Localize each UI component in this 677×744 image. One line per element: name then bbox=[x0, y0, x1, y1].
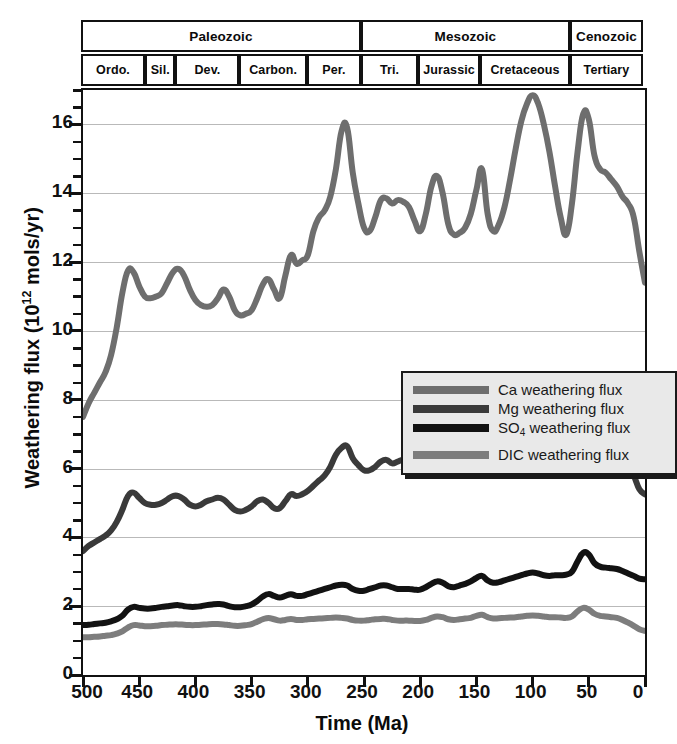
legend-item-label: Ca weathering flux bbox=[498, 381, 622, 398]
y-axis-tick-minor bbox=[73, 175, 83, 178]
legend-swatch-icon bbox=[413, 424, 489, 432]
timescale-cell-label: Dev. bbox=[194, 63, 220, 77]
series-line-so4 bbox=[83, 552, 645, 625]
y-axis-tick-minor bbox=[73, 89, 83, 92]
y-tick-label: 10 bbox=[52, 318, 73, 340]
y-axis-tick-minor bbox=[73, 640, 83, 643]
timescale-cell-label: Tri. bbox=[380, 63, 399, 77]
legend-item-dic-series: DIC weathering flux bbox=[413, 445, 667, 464]
chart-legend: Ca weathering fluxMg weathering fluxSO4 … bbox=[401, 371, 677, 475]
plot-area: Ca weathering fluxMg weathering fluxSO4 … bbox=[81, 88, 647, 677]
timescale-cell-label: Sil. bbox=[151, 63, 170, 77]
y-axis-tick-minor bbox=[73, 588, 83, 591]
y-tick-label: 2 bbox=[62, 593, 73, 615]
y-axis-tick-minor bbox=[73, 382, 83, 385]
y-axis-tick-minor bbox=[73, 450, 83, 453]
legend-item-so4-series: SO4 weathering flux bbox=[413, 418, 667, 437]
series-line-dic bbox=[83, 608, 645, 637]
x-tick-label: 200 bbox=[402, 681, 434, 703]
timescale-cell-label: Jurassic bbox=[423, 63, 475, 77]
x-tick-label: 50 bbox=[576, 681, 597, 703]
y-tick-label: 16 bbox=[52, 111, 73, 133]
timescale-cell-sil: Sil. bbox=[145, 54, 175, 86]
timescale-cell-cretaceous: Cretaceous bbox=[480, 54, 570, 86]
x-axis-tick-major bbox=[644, 675, 647, 687]
legend-swatch-icon bbox=[413, 386, 489, 394]
y-tick-label: 14 bbox=[52, 180, 73, 202]
x-tick-label: 150 bbox=[459, 681, 491, 703]
timescale-cell-paleozoic: Paleozoic bbox=[81, 20, 361, 52]
timescale-cell-tri: Tri. bbox=[361, 54, 418, 86]
x-tick-label: 400 bbox=[178, 681, 210, 703]
y-axis-tick-minor bbox=[73, 313, 83, 316]
geologic-timescale: PaleozoicMesozoicCenozoic Ordo.Sil.Dev.C… bbox=[81, 20, 643, 86]
y-axis-tick-minor bbox=[73, 502, 83, 505]
y-axis-tick-minor bbox=[73, 141, 83, 144]
timescale-period-row: Ordo.Sil.Dev.Carbon.Per.Tri.JurassicCret… bbox=[81, 54, 643, 86]
timescale-cell-label: Cretaceous bbox=[490, 63, 559, 77]
y-axis-tick-minor bbox=[73, 106, 83, 109]
timescale-era-row: PaleozoicMesozoicCenozoic bbox=[81, 20, 643, 52]
timescale-cell-mesozoic: Mesozoic bbox=[361, 20, 570, 52]
timescale-cell-ordo: Ordo. bbox=[81, 54, 145, 86]
legend-swatch-icon bbox=[413, 405, 489, 413]
x-tick-label: 300 bbox=[290, 681, 322, 703]
series-line-ca bbox=[83, 95, 645, 417]
legend-item-label: Mg weathering flux bbox=[498, 400, 624, 417]
x-tick-label: 450 bbox=[121, 681, 153, 703]
y-axis-tick-minor bbox=[73, 347, 83, 350]
y-axis-tick-minor bbox=[73, 571, 83, 574]
timescale-cell-label: Cenozoic bbox=[576, 29, 637, 44]
y-axis-tick-minor bbox=[73, 485, 83, 488]
legend-item-ca-series: Ca weathering flux bbox=[413, 380, 667, 399]
y-axis-tick-minor bbox=[73, 158, 83, 161]
timescale-cell-cenozoic: Cenozoic bbox=[570, 20, 643, 52]
legend-item-label: DIC weathering flux bbox=[498, 446, 629, 463]
y-axis-tick-minor bbox=[73, 209, 83, 212]
timescale-cell-tertiary: Tertiary bbox=[570, 54, 643, 86]
x-tick-label: 500 bbox=[71, 681, 103, 703]
y-axis-tick-minor bbox=[73, 416, 83, 419]
legend-item-label: SO4 weathering flux bbox=[498, 419, 630, 436]
y-tick-label: 4 bbox=[62, 524, 73, 546]
x-tick-label: 100 bbox=[515, 681, 547, 703]
x-tick-label: 0 bbox=[633, 681, 644, 703]
y-axis-tick-minor bbox=[73, 519, 83, 522]
y-axis-title: Weathering flux (1012 mols/yr) bbox=[20, 68, 44, 628]
y-axis-tick-minor bbox=[73, 364, 83, 367]
timescale-cell-label: Tertiary bbox=[584, 63, 630, 77]
y-axis-tick-minor bbox=[73, 278, 83, 281]
timescale-cell-label: Paleozoic bbox=[189, 29, 252, 44]
x-tick-label: 350 bbox=[234, 681, 266, 703]
y-axis-tick-minor bbox=[73, 433, 83, 436]
legend-swatch-icon bbox=[413, 451, 489, 459]
timescale-cell-per: Per. bbox=[307, 54, 361, 86]
y-axis-tick-minor bbox=[73, 657, 83, 660]
timescale-cell-jurassic: Jurassic bbox=[418, 54, 480, 86]
timescale-cell-label: Per. bbox=[322, 63, 345, 77]
x-axis-title: Time (Ma) bbox=[81, 712, 643, 735]
y-tick-label: 6 bbox=[62, 456, 73, 478]
x-tick-label: 250 bbox=[346, 681, 378, 703]
timescale-cell-dev: Dev. bbox=[175, 54, 239, 86]
y-axis-tick-minor bbox=[73, 227, 83, 230]
y-axis-tick-minor bbox=[73, 244, 83, 247]
timescale-cell-label: Mesozoic bbox=[435, 29, 497, 44]
y-axis-tick-minor bbox=[73, 622, 83, 625]
timescale-cell-carbon: Carbon. bbox=[239, 54, 306, 86]
timescale-cell-label: Carbon. bbox=[249, 63, 297, 77]
y-tick-label: 12 bbox=[52, 249, 73, 271]
y-axis-tick-minor bbox=[73, 554, 83, 557]
y-axis-tick-minor bbox=[73, 295, 83, 298]
legend-item-mg-series: Mg weathering flux bbox=[413, 399, 667, 418]
timescale-cell-label: Ordo. bbox=[96, 63, 130, 77]
y-tick-label: 8 bbox=[62, 387, 73, 409]
x-axis-tick-labels: 500450400350300250200150100500 bbox=[81, 681, 643, 707]
